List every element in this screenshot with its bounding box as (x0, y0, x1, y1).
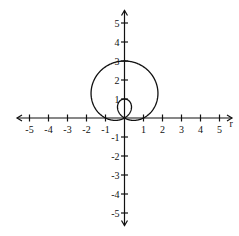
x-tick-label: 5 (217, 124, 222, 135)
y-tick-label: -4 (111, 189, 119, 200)
x-axis-label: r (230, 118, 234, 129)
y-tick-label: -5 (111, 208, 119, 219)
x-tick-label: -4 (44, 124, 52, 135)
x-tick-label: -3 (63, 124, 71, 135)
x-tick-label: 4 (198, 124, 203, 135)
y-tick-label: -1 (111, 132, 119, 143)
y-tick-label: -3 (111, 170, 119, 181)
x-tick-label: 3 (179, 124, 184, 135)
y-tick-label: 4 (115, 37, 120, 48)
x-tick-label: -1 (101, 124, 109, 135)
polar-graph: -5-4-3-2-11234554321-1-2-3-4-5 r (0, 0, 239, 236)
x-tick-label: 2 (160, 124, 165, 135)
x-tick-label: -2 (82, 124, 90, 135)
y-tick-label: 5 (115, 18, 120, 29)
y-tick-label: 2 (115, 75, 120, 86)
y-tick-label: -2 (111, 151, 119, 162)
x-tick-label: 1 (141, 124, 146, 135)
x-tick-label: -5 (25, 124, 33, 135)
